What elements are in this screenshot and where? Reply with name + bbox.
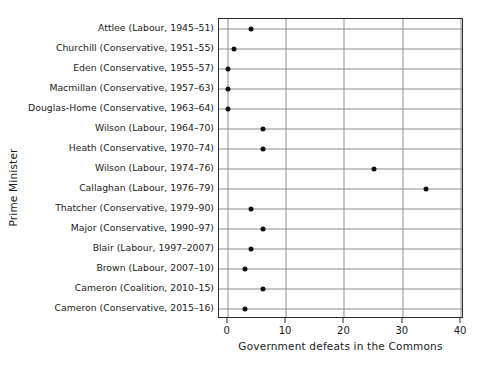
- y-axis-title: Prime Minister: [0, 0, 26, 375]
- data-point: [424, 187, 429, 192]
- gridline-horizontal: [219, 249, 462, 250]
- data-point: [243, 307, 248, 312]
- y-axis-tick-label: Macmillan (Conservative, 1957–63): [49, 83, 214, 92]
- x-axis-tick-mark: [285, 318, 286, 323]
- data-point: [225, 107, 230, 112]
- data-point: [249, 27, 254, 32]
- y-axis-tick-label: Callaghan (Labour, 1976–79): [79, 183, 214, 192]
- y-axis-tick-label: Cameron (Coalition, 2010–15): [75, 283, 214, 292]
- data-point: [260, 147, 265, 152]
- x-axis-tick-label: 0: [224, 325, 230, 336]
- x-axis-tick-label: 10: [279, 325, 292, 336]
- data-point: [371, 167, 376, 172]
- gridline-horizontal: [219, 289, 462, 290]
- data-point: [225, 87, 230, 92]
- gridline-vertical: [344, 19, 345, 317]
- data-point: [249, 247, 254, 252]
- gridline-horizontal: [219, 69, 462, 70]
- y-axis-tick-label: Brown (Labour, 2007–10): [96, 263, 214, 272]
- data-point: [260, 127, 265, 132]
- y-axis-tick-label: Cameron (Conservative, 2015–16): [54, 303, 214, 312]
- x-axis-tick-label: 40: [454, 325, 467, 336]
- y-axis-tick-label: Thatcher (Conservative, 1979–90): [55, 203, 214, 212]
- x-axis-title: Government defeats in the Commons: [218, 340, 463, 352]
- y-axis-tick-labels: Attlee (Labour, 1945–51)Churchill (Conse…: [26, 18, 218, 318]
- data-point: [260, 227, 265, 232]
- y-axis-tick-label: Douglas-Home (Conservative, 1963–64): [28, 103, 214, 112]
- plot-area: [218, 18, 463, 318]
- gridline-horizontal: [219, 89, 462, 90]
- data-point: [243, 267, 248, 272]
- gridline-vertical: [286, 19, 287, 317]
- y-axis-tick-label: Heath (Conservative, 1970–74): [69, 143, 214, 152]
- gridline-vertical: [461, 19, 462, 317]
- gridline-horizontal: [219, 29, 462, 30]
- y-axis-tick-label: Churchill (Conservative, 1951–55): [56, 43, 214, 52]
- x-axis-tick-mark: [460, 318, 461, 323]
- gridline-horizontal: [219, 309, 462, 310]
- x-axis-tick-mark: [226, 318, 227, 323]
- x-axis-tick-label: 30: [395, 325, 408, 336]
- gridline-horizontal: [219, 229, 462, 230]
- y-axis-tick-label: Wilson (Labour, 1964–70): [95, 123, 214, 132]
- data-point: [249, 207, 254, 212]
- x-axis-ticks: 010203040: [218, 318, 463, 340]
- x-axis-tick-label: 20: [337, 325, 350, 336]
- gridline-vertical: [402, 19, 403, 317]
- x-axis-tick-mark: [401, 318, 402, 323]
- gridline-vertical: [227, 19, 228, 317]
- y-axis-tick-label: Eden (Conservative, 1955–57): [73, 63, 214, 72]
- gridline-horizontal: [219, 129, 462, 130]
- y-axis-tick-label: Blair (Labour, 1997–2007): [93, 243, 214, 252]
- x-axis-tick-mark: [343, 318, 344, 323]
- data-point: [260, 287, 265, 292]
- data-point: [231, 47, 236, 52]
- y-axis-tick-label: Major (Conservative, 1990–97): [71, 223, 214, 232]
- gridline-horizontal: [219, 49, 462, 50]
- chart-figure: Prime Minister Attlee (Labour, 1945–51)C…: [0, 0, 489, 375]
- gridline-horizontal: [219, 209, 462, 210]
- gridline-horizontal: [219, 269, 462, 270]
- gridline-horizontal: [219, 169, 462, 170]
- data-point: [225, 67, 230, 72]
- gridline-horizontal: [219, 109, 462, 110]
- y-axis-tick-label: Wilson (Labour, 1974–76): [95, 163, 214, 172]
- y-axis-tick-label: Attlee (Labour, 1945–51): [98, 23, 214, 32]
- gridline-horizontal: [219, 149, 462, 150]
